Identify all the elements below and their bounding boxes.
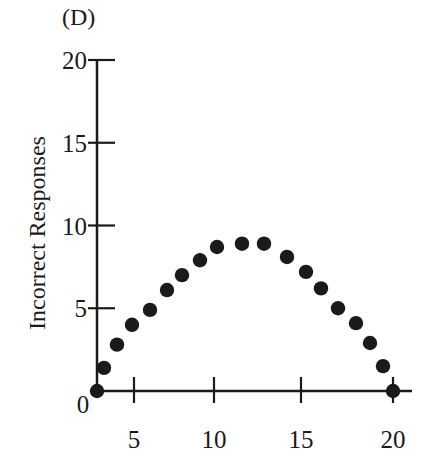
tick-label: 15 [289,426,314,453]
data-point [90,384,104,398]
data-point [143,303,157,317]
tick-label: 10 [202,426,227,453]
data-point [175,268,189,282]
data-point [363,336,377,350]
data-point [210,240,224,254]
data-point [299,265,313,279]
data-point [257,237,271,251]
data-point [349,316,363,330]
tick-label: 20 [381,426,406,453]
tick-label: 0 [77,391,90,418]
tick-label: 20 [62,47,87,74]
data-point [125,318,139,332]
tick-label: 10 [62,213,87,240]
data-point [160,283,174,297]
data-points [90,237,400,399]
tick-label: 15 [62,130,87,157]
tick-label: 5 [75,295,88,322]
data-point [193,253,207,267]
y-axis-label: Incorrect Responses [24,136,51,330]
data-point [235,237,249,251]
data-point [331,301,345,315]
data-point [280,250,294,264]
data-point [110,337,124,351]
data-point [97,361,111,375]
axes [88,60,412,403]
tick-label: 5 [128,426,141,453]
data-point [386,384,400,398]
data-point [376,359,390,373]
data-point [314,281,328,295]
scatter-chart: 510152005101520 [0,0,436,472]
